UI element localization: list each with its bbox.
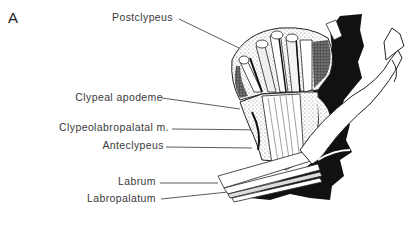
leader-postclypeus bbox=[179, 19, 239, 48]
leader-clypeal-apodeme bbox=[162, 98, 240, 109]
anatomical-illustration bbox=[0, 0, 407, 233]
leader-anteclypeus bbox=[166, 147, 252, 148]
leader-labropalatum bbox=[161, 192, 228, 199]
